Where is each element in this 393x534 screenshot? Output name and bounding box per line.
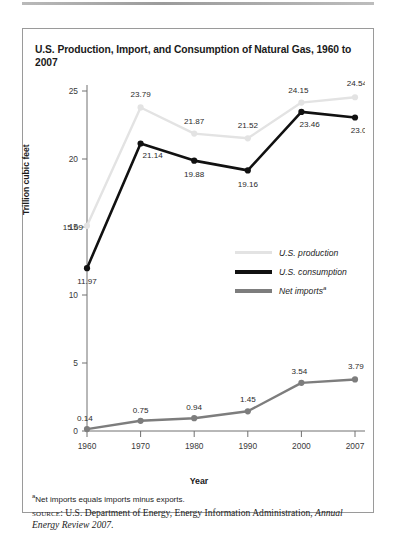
legend-swatch-consumption: [235, 270, 272, 274]
data-point: [138, 418, 144, 424]
y-tick-label: 10: [69, 290, 79, 300]
data-point-label: 21.87: [184, 117, 205, 126]
y-tick-label: 0: [73, 426, 78, 436]
data-point-label: 23.46: [299, 120, 320, 129]
page-title: U.S. Production, Import, and Consumption…: [35, 43, 365, 69]
y-tick-label: 20: [69, 154, 79, 164]
data-point: [245, 167, 251, 173]
y-tick-label: 25: [69, 86, 79, 96]
legend-item-consumption: U.S. consumption: [235, 262, 355, 281]
data-point-label: 21.14: [143, 151, 164, 160]
data-point: [191, 158, 197, 164]
data-point: [298, 380, 304, 386]
data-point-label: 0.75: [133, 406, 149, 415]
x-tick-label: 1970: [131, 441, 150, 451]
x-tick-label: 2000: [292, 441, 311, 451]
chart-legend: U.S. production U.S. consumption Net imp…: [235, 243, 355, 300]
data-point-label: 21.52: [238, 121, 259, 130]
data-point: [84, 223, 90, 229]
data-point: [352, 114, 358, 120]
data-point: [352, 94, 358, 100]
legend-label-production: U.S. production: [279, 248, 338, 258]
data-point: [245, 408, 251, 414]
y-axis-title: Trillion cubic feet: [21, 144, 31, 215]
data-point-label: 24.15: [288, 86, 309, 95]
x-axis-title: Year: [23, 476, 375, 486]
data-point-label: 19.88: [184, 170, 205, 179]
series-line: [87, 97, 355, 226]
footnote: aNet imports equals imports minus export…: [32, 491, 367, 505]
source-period: .: [111, 519, 113, 530]
data-point-label: 24.54: [347, 79, 365, 88]
source-label: source: [32, 507, 60, 518]
data-point: [191, 130, 197, 136]
data-point-label: 15.09: [63, 223, 84, 232]
data-point-label: 23.79: [130, 90, 151, 99]
x-tick-label: 1990: [238, 441, 257, 451]
data-point: [298, 99, 304, 105]
legend-footnote-marker: a: [323, 285, 326, 291]
data-point-label: 1.45: [240, 395, 256, 404]
legend-swatch-production: [235, 251, 272, 254]
legend-label-net-imports: Net importsa: [279, 285, 326, 296]
data-point: [191, 415, 197, 421]
figure-frame: U.S. Production, Import, and Consumption…: [22, 28, 374, 513]
data-point-label: 19.16: [238, 180, 259, 189]
legend-item-net-imports: Net importsa: [235, 281, 355, 300]
data-point-label: 0.94: [186, 403, 202, 412]
data-point: [298, 109, 304, 115]
legend-item-production: U.S. production: [235, 243, 355, 262]
x-tick-label: 2007: [346, 441, 365, 451]
data-point: [352, 376, 358, 382]
series-line: [87, 380, 355, 430]
y-tick-label: 5: [73, 358, 78, 368]
top-divider-rule: [22, 2, 374, 5]
data-point-label: 3.54: [292, 367, 308, 376]
legend-swatch-net-imports: [235, 289, 272, 293]
footnote-text: Net imports equals imports minus exports…: [35, 495, 184, 504]
source-note: source: U.S. Department of Energy, Energ…: [32, 507, 368, 532]
legend-label-net-imports-text: Net imports: [279, 286, 323, 296]
x-tick-label: 1960: [78, 441, 97, 451]
data-point: [84, 265, 90, 271]
data-point-label: 11.97: [77, 277, 97, 286]
data-point-label: 23.05: [351, 126, 365, 135]
data-point: [138, 104, 144, 110]
data-point-label: 3.79: [348, 362, 364, 371]
source-text: U.S. Department of Energy, Energy Inform…: [65, 507, 315, 518]
data-point: [245, 135, 251, 141]
legend-label-consumption: U.S. consumption: [279, 267, 347, 277]
x-tick-label: 1980: [185, 441, 204, 451]
data-point: [84, 426, 90, 432]
data-point-label: 0.14: [77, 414, 93, 423]
data-point: [138, 140, 144, 146]
